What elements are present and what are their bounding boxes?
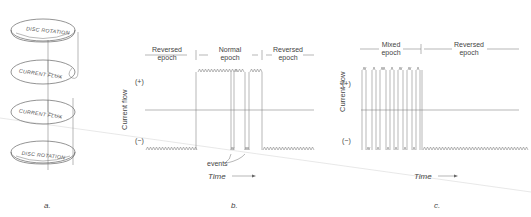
disc-flux-lower: CURRENT FLUX bbox=[11, 100, 75, 124]
epoch-b-2-line2: epoch bbox=[220, 54, 239, 62]
panel-c-minus: (−) bbox=[342, 137, 351, 145]
figure-canvas: DISC ROTATION CURRENT FLUX CURRENT FLUX … bbox=[0, 0, 531, 217]
disc-bottom-label: DISC ROTATION bbox=[21, 150, 65, 161]
epoch-b-3-line1: Reversed bbox=[273, 46, 303, 53]
epoch-b-3-line2: epoch bbox=[278, 54, 297, 62]
disc-bottom: DISC ROTATION bbox=[11, 141, 75, 164]
panel-b-single-reversal: Reversed epoch Normal epoch Reversed epo… bbox=[120, 46, 314, 210]
panel-b-label: b. bbox=[231, 201, 238, 210]
panel-b-plus: (+) bbox=[135, 78, 144, 86]
events-label: events bbox=[207, 160, 228, 167]
epoch-c-2-line1: Reversed bbox=[454, 41, 484, 48]
disc-flux-upper-label: CURRENT FLUX bbox=[19, 68, 63, 80]
epoch-c-1-line2: epoch bbox=[381, 49, 400, 57]
panel-c-ylabel: Current flow bbox=[338, 71, 347, 112]
epoch-b-1-line1: Reversed bbox=[152, 46, 182, 53]
panel-b-xlabel: Time bbox=[208, 172, 226, 181]
disc-top: DISC ROTATION bbox=[11, 19, 75, 42]
epoch-b-2-line1: Normal bbox=[219, 46, 242, 53]
panel-c-xlabel: Time bbox=[414, 172, 432, 181]
epoch-b-1-line2: epoch bbox=[157, 54, 176, 62]
panel-b-waveform bbox=[146, 69, 314, 150]
panel-b-ylabel: Current flow bbox=[120, 89, 129, 130]
panel-a-label: a. bbox=[44, 201, 51, 210]
scan-artifact-line bbox=[0, 118, 531, 192]
panel-b-minus: (−) bbox=[135, 137, 144, 145]
arrow-right-icon bbox=[454, 175, 458, 178]
epoch-c-2-line2: epoch bbox=[459, 49, 478, 57]
panel-c-time-axis: Time bbox=[414, 172, 458, 181]
disc-top-label: DISC ROTATION bbox=[26, 25, 70, 36]
disc-flux-lower-label: CURRENT FLUX bbox=[19, 108, 63, 120]
arrow-right-icon bbox=[252, 175, 256, 178]
epoch-c-1-line1: Mixed bbox=[382, 41, 401, 48]
panel-a-disc-dynamo: DISC ROTATION CURRENT FLUX CURRENT FLUX … bbox=[11, 19, 78, 210]
panel-c-mixed-epoch: Mixed epoch Reversed epoch Current flow … bbox=[338, 41, 528, 210]
disc-flux-upper: CURRENT FLUX bbox=[11, 60, 75, 84]
panel-b-time-axis: Time bbox=[208, 172, 256, 181]
panel-c-waveform bbox=[362, 67, 528, 150]
panel-c-plus: (+) bbox=[342, 80, 351, 88]
panel-c-label: c. bbox=[434, 201, 440, 210]
